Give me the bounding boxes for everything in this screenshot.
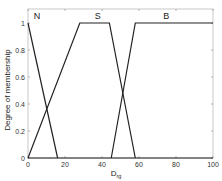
series-labels: NSB [34, 11, 170, 21]
y-tick-label: 0 [21, 155, 25, 162]
x-tick-label: 100 [207, 161, 219, 168]
x-tick-label: 0 [26, 161, 30, 168]
y-tick-label: 1 [21, 20, 25, 27]
series-n-line [28, 23, 58, 158]
x-tick-label: 80 [172, 161, 180, 168]
x-tick-label: 60 [135, 161, 143, 168]
x-axis-label: Drg [111, 169, 122, 179]
x-tick-label: 20 [61, 161, 69, 168]
y-axis-label: Degree of membership [3, 49, 12, 131]
series-n-label: N [34, 11, 41, 21]
series-lines [28, 23, 213, 158]
series-s-label: S [95, 11, 101, 21]
x-tick-label: 40 [98, 161, 106, 168]
series-b-label: B [163, 11, 169, 21]
y-tick-label: 0.6 [15, 74, 25, 81]
y-tick-label: 0.8 [15, 47, 25, 54]
membership-chart: 02040608010000.20.40.60.81 NSB Degree of… [0, 0, 222, 181]
series-b-line [111, 23, 213, 158]
y-tick-label: 0.4 [15, 101, 25, 108]
axis-ticks: 02040608010000.20.40.60.81 [15, 9, 219, 168]
series-s-line [28, 23, 135, 158]
x-axis-label-subscript: rg [116, 173, 121, 179]
y-tick-label: 0.2 [15, 128, 25, 135]
